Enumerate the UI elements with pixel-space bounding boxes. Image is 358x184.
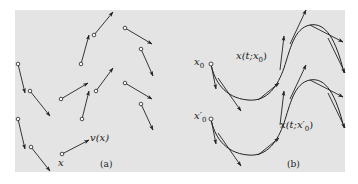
vector-base-point [92,33,96,37]
vector-base-point [59,97,63,101]
vector-base-point [139,102,143,106]
vector-base-point [123,26,127,30]
vector-base-point [16,117,20,121]
vector-base-point [29,145,33,149]
figure: v(x) x (a) x0 x′0 x(t;x0) x(t;x′0) (b) [0,0,358,184]
vector-base-point [79,62,83,66]
vector-label: v(x) [90,132,109,143]
vector-base-point [94,89,98,93]
panel-b-caption: (b) [287,159,300,169]
vector-base-point [60,152,64,156]
start-point-1 [209,62,213,66]
panel-a: v(x) x (a) [15,10,178,172]
vector-base-point [80,117,84,121]
panel-b: x0 x′0 x(t;x0) x(t;x′0) (b) [178,10,345,172]
vector-base-point [16,62,20,66]
vector-base-point [28,89,32,93]
panel-b-background [178,10,345,172]
panel-a-caption: (a) [100,159,112,169]
vector-base-point [139,47,143,51]
point-label: x [58,157,64,168]
vector-base-point [123,81,127,85]
start-point-2 [209,117,213,121]
